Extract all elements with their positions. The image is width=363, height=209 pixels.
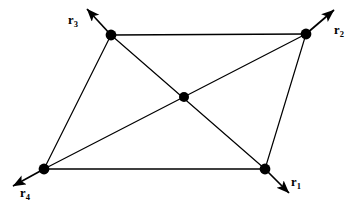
figure-canvas: r3 r2 r1 r4 [0,0,363,209]
lattice-diagram [0,0,363,209]
vector-label-r2-subscript: 2 [340,29,344,39]
corner-bottom-right [260,164,271,175]
corner-top-left [106,30,117,41]
vector-arrow-r2 [306,10,334,34]
vector-label-r1: r1 [291,176,301,189]
corner-top-right [301,29,312,40]
vector-label-r4-subscript: 4 [26,192,30,202]
vector-label-r3-base: r [68,13,74,27]
vector-label-r4-base: r [20,186,26,200]
corner-bottom-left [39,164,50,175]
vector-label-r1-base: r [291,175,297,189]
vector-label-r4: r4 [20,187,30,200]
vector-label-r2-base: r [334,23,340,37]
edge-right [265,34,306,169]
vector-label-r3-subscript: 3 [74,19,78,29]
edge-left [44,35,111,169]
diagonal-topleft-bottomright [111,35,265,169]
edges-group [44,34,306,169]
center-site [179,92,189,102]
vector-label-r1-subscript: 1 [297,181,301,191]
vector-label-r2: r2 [334,24,344,37]
diagonal-bottomleft-topright [44,34,306,169]
edge-top [111,34,306,35]
vector-label-r3: r3 [68,14,78,27]
